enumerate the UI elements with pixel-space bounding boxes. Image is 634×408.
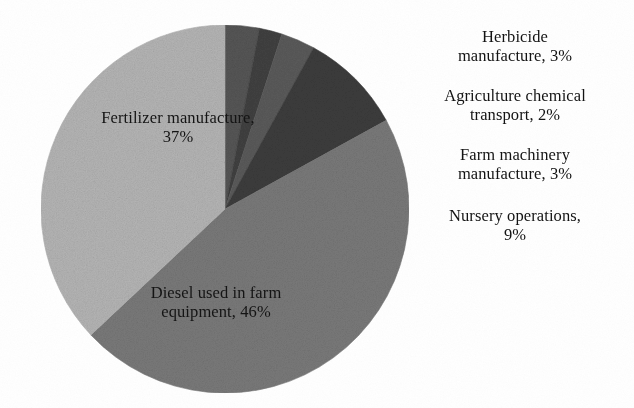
slice-label-agriculture-chemical-transport: Agriculture chemical transport, 2% xyxy=(396,86,634,125)
pie-chart-graphic xyxy=(41,25,409,393)
slice-label-herbicide-manufacture: Herbicide manufacture, 3% xyxy=(396,27,634,66)
slice-label-fertilizer-manufacture: Fertilizer manufacture, 37% xyxy=(62,108,294,147)
slice-label-nursery-operations: Nursery operations, 9% xyxy=(396,206,634,245)
slice-label-diesel-used-in-farm-equipment: Diesel used in farm equipment, 46% xyxy=(100,283,332,322)
pie-svg xyxy=(41,25,409,393)
slice-label-farm-machinery-manufacture: Farm machinery manufacture, 3% xyxy=(396,145,634,184)
pie-slice-group xyxy=(41,25,409,393)
pie-chart-figure: Fertilizer manufacture, 37% Diesel used … xyxy=(0,0,634,408)
